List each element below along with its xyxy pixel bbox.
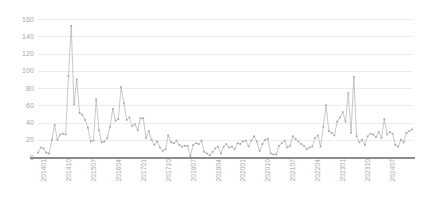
series-point xyxy=(151,139,153,141)
series-point xyxy=(239,143,241,145)
series-point xyxy=(361,139,363,141)
series-point xyxy=(95,98,97,100)
series-point xyxy=(306,148,308,150)
x-axis-tick-label: 201401 xyxy=(41,159,48,199)
series-point xyxy=(140,117,142,119)
series-point xyxy=(264,139,266,141)
series-point xyxy=(115,120,117,122)
series-point xyxy=(375,136,377,138)
x-axis-tick-label: 202407 xyxy=(390,159,397,199)
series-point xyxy=(289,145,291,147)
series-point xyxy=(212,151,214,153)
series-point xyxy=(317,135,319,137)
series-point xyxy=(228,147,230,149)
series-point xyxy=(397,146,399,148)
series-point xyxy=(81,114,83,116)
series-point xyxy=(381,137,383,139)
series-point xyxy=(165,148,167,150)
series-point xyxy=(187,145,189,147)
x-axis-tick-label: 201604 xyxy=(116,159,123,199)
series-point xyxy=(392,133,394,135)
series-point xyxy=(328,130,330,132)
series-point xyxy=(59,134,61,136)
series-point xyxy=(126,119,128,121)
series-point xyxy=(403,141,405,143)
series-point xyxy=(370,133,372,135)
series-point xyxy=(123,103,125,105)
series-point xyxy=(395,144,397,146)
series-point xyxy=(339,116,341,118)
series-point xyxy=(353,76,355,78)
series-point xyxy=(292,135,294,137)
series-point xyxy=(142,117,144,119)
x-axis-tick-label: 202310 xyxy=(365,159,372,199)
series-point xyxy=(184,145,186,147)
series-point xyxy=(220,153,222,155)
series-point xyxy=(48,153,50,155)
series-point xyxy=(104,141,106,143)
series-point xyxy=(300,143,302,145)
series-point xyxy=(162,150,164,152)
series-point xyxy=(356,135,358,137)
series-point xyxy=(112,108,114,110)
series-point xyxy=(336,121,338,123)
series-point xyxy=(201,140,203,142)
series-point xyxy=(323,126,325,128)
series-point xyxy=(173,142,175,144)
series-point xyxy=(303,145,305,147)
x-axis: 2014012014102015072016042017012017102018… xyxy=(0,158,423,201)
series-point xyxy=(223,146,225,148)
series-point xyxy=(408,130,410,132)
series-point xyxy=(250,140,252,142)
series-point xyxy=(270,153,272,155)
series-point xyxy=(350,132,352,134)
series-point xyxy=(325,104,327,106)
series-point xyxy=(98,129,100,131)
series-point xyxy=(209,154,211,156)
series-point xyxy=(73,104,75,106)
x-axis-tick-label: 202301 xyxy=(340,159,347,199)
series-point xyxy=(129,116,131,118)
series-point xyxy=(347,92,349,94)
series-point xyxy=(367,135,369,137)
series-point xyxy=(148,130,150,132)
series-point xyxy=(87,127,89,129)
series-point xyxy=(359,141,361,143)
series-point xyxy=(364,144,366,146)
series-point xyxy=(334,135,336,137)
series-point xyxy=(311,146,313,148)
series-point xyxy=(345,121,347,123)
series-point xyxy=(203,151,205,153)
series-point xyxy=(231,146,233,148)
series-point xyxy=(156,141,158,143)
x-axis-tick-label: 201710 xyxy=(166,159,173,199)
series-point xyxy=(45,152,47,154)
series-point xyxy=(378,131,380,133)
series-point xyxy=(145,137,147,139)
series-point xyxy=(57,139,59,141)
series-point xyxy=(178,144,180,146)
series-point xyxy=(298,141,300,143)
series-point xyxy=(159,147,161,149)
series-point xyxy=(286,147,288,149)
series-point xyxy=(190,155,192,157)
series-point xyxy=(245,140,247,142)
series-point xyxy=(117,118,119,120)
series-point xyxy=(226,143,228,145)
series-point xyxy=(192,144,194,146)
series-point xyxy=(206,153,208,155)
series-point xyxy=(314,137,316,139)
series-point xyxy=(237,142,239,144)
series-point xyxy=(295,138,297,140)
series-point xyxy=(106,137,108,139)
series-point xyxy=(383,118,385,120)
x-axis-tick-label: 202001 xyxy=(240,159,247,199)
series-point xyxy=(400,139,402,141)
x-axis-tick-label: 201904 xyxy=(216,159,223,199)
x-axis-tick-label: 201507 xyxy=(91,159,98,199)
series-point xyxy=(331,132,333,134)
x-axis-tick-label: 202010 xyxy=(265,159,272,199)
series-point xyxy=(198,143,200,145)
series-point xyxy=(253,135,255,137)
series-point xyxy=(79,112,81,114)
